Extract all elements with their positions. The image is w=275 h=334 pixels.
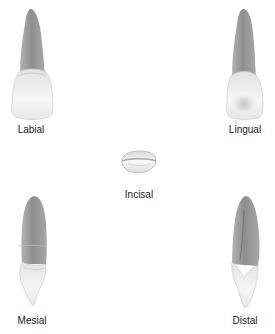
distal-view: Distal xyxy=(222,194,272,330)
incisal-tooth-illustration xyxy=(116,144,162,180)
view-label-distal: Distal xyxy=(222,315,268,326)
labial-tooth-illustration xyxy=(8,6,58,124)
view-label-mesial: Mesial xyxy=(10,315,54,326)
view-label-lingual: Lingual xyxy=(222,124,268,135)
view-label-incisal: Incisal xyxy=(116,189,162,200)
lingual-view: Lingual xyxy=(222,6,272,124)
mesial-tooth-illustration xyxy=(10,194,60,312)
view-label-labial: Labial xyxy=(8,124,54,135)
labial-view: Labial xyxy=(8,6,58,124)
lingual-tooth-illustration xyxy=(222,6,272,124)
incisal-view: Incisal xyxy=(116,144,162,206)
distal-tooth-illustration xyxy=(222,194,272,312)
mesial-view: Mesial xyxy=(10,194,60,330)
